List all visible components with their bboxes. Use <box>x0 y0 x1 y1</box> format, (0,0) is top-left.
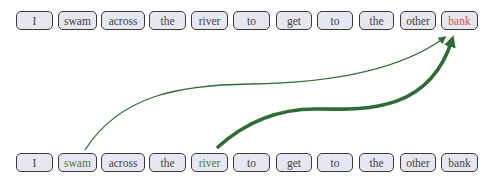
top-token-3: the <box>149 11 186 30</box>
token-label: bank <box>448 157 470 169</box>
token-label: get <box>287 15 301 27</box>
top-token-6: get <box>276 11 312 30</box>
token-label: river <box>199 15 221 27</box>
token-label: to <box>247 15 256 27</box>
token-label: bank <box>448 15 470 27</box>
arrow-river-to-bank <box>218 40 452 147</box>
token-label: the <box>160 157 174 169</box>
top-token-query-bank: bank <box>441 11 478 30</box>
top-token-4: river <box>191 11 228 30</box>
token-label: get <box>287 157 301 169</box>
token-label: I <box>33 15 37 27</box>
top-token-0: I <box>16 11 53 30</box>
bottom-token-attended-swam: swam <box>58 153 97 172</box>
top-token-5: to <box>233 11 270 30</box>
arrow-swam-to-bank <box>85 38 444 150</box>
top-token-2: across <box>101 11 145 30</box>
token-label: to <box>331 157 340 169</box>
token-label: swam <box>64 15 91 27</box>
bottom-token-3: the <box>149 153 186 172</box>
token-label: to <box>247 157 256 169</box>
bottom-token-8: the <box>359 153 394 172</box>
token-label: swam <box>64 157 91 169</box>
top-token-8: the <box>359 11 394 30</box>
bottom-token-2: across <box>101 153 145 172</box>
top-token-1: swam <box>58 11 97 30</box>
top-token-9: other <box>400 11 436 30</box>
bottom-token-9: other <box>400 153 436 172</box>
bottom-token-attended-river: river <box>191 153 228 172</box>
token-label: to <box>331 15 340 27</box>
bottom-token-10: bank <box>441 153 478 172</box>
token-label: river <box>199 157 221 169</box>
token-label: the <box>369 15 383 27</box>
token-label: I <box>33 157 37 169</box>
bottom-token-6: get <box>276 153 312 172</box>
bottom-token-0: I <box>16 153 53 172</box>
bottom-token-row: I swam across the river to get to the ot… <box>0 153 489 174</box>
token-label: other <box>406 15 430 27</box>
token-label: across <box>109 157 138 169</box>
top-token-7: to <box>317 11 353 30</box>
bottom-token-7: to <box>317 153 353 172</box>
token-label: other <box>406 157 430 169</box>
token-label: across <box>109 15 138 27</box>
token-label: the <box>160 15 174 27</box>
token-label: the <box>369 157 383 169</box>
top-token-row: I swam across the river to get to the ot… <box>0 11 489 32</box>
bottom-token-5: to <box>233 153 270 172</box>
